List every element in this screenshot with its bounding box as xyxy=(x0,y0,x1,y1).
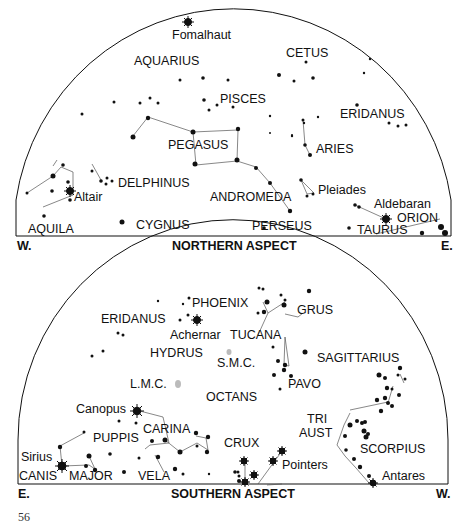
label-andromeda: ANDROMEDA xyxy=(210,191,291,204)
label-aldebaran: Aldebaran xyxy=(374,198,431,211)
label-antares: Antares xyxy=(382,470,425,483)
label-fomalhaut: Fomalhaut xyxy=(172,29,231,42)
south-west-label: W. xyxy=(436,488,451,501)
label-cygnus: CYGNUS xyxy=(136,219,189,232)
pointers-star-icon xyxy=(268,456,278,466)
label-aries: ARIES xyxy=(316,143,354,156)
fomalhaut-star-icon xyxy=(182,16,194,28)
north-east-label: E. xyxy=(441,240,453,253)
label-perseus: PERSEUS xyxy=(252,220,312,233)
southern-aspect-title: SOUTHERN ASPECT xyxy=(171,488,295,501)
smc-cloud xyxy=(227,349,232,355)
label-smc: S.M.C. xyxy=(217,357,255,370)
label-grus: GRUS xyxy=(297,304,333,317)
label-aust: AUST xyxy=(299,427,332,440)
label-puppis: PUPPIS xyxy=(93,432,139,445)
label-hydrus: HYDRUS xyxy=(150,347,203,360)
canopus-star-icon xyxy=(130,404,144,418)
pointers-star-icon-2 xyxy=(277,446,287,456)
label-scorpius: SCORPIUS xyxy=(360,443,425,456)
label-major: MAJOR xyxy=(69,470,113,483)
label-eridanus-north: ERIDANUS xyxy=(340,108,405,121)
crux-star-icon-3 xyxy=(240,477,250,487)
label-vela: VELA xyxy=(138,470,170,483)
label-tri: TRI xyxy=(307,413,327,426)
label-pleiades: Pleiades xyxy=(318,184,366,197)
label-pisces: PISCES xyxy=(220,93,266,106)
achernar-star-icon xyxy=(191,314,203,326)
label-pegasus: PEGASUS xyxy=(168,139,228,152)
label-lmc: L.M.C. xyxy=(130,378,167,391)
label-crux: CRUX xyxy=(224,437,259,450)
label-pointers: Pointers xyxy=(282,459,328,472)
label-phoenix: PHOENIX xyxy=(192,297,248,310)
crux-star-icon xyxy=(239,456,249,466)
label-tucana: TUCANA xyxy=(230,329,281,342)
label-cetus: CETUS xyxy=(286,47,328,60)
label-octans: OCTANS xyxy=(206,391,257,404)
label-canopus: Canopus xyxy=(76,403,126,416)
label-sagittarius: SAGITTARIUS xyxy=(317,352,399,365)
label-taurus: TAURUS xyxy=(357,224,407,237)
label-sirius: Sirius xyxy=(21,451,52,464)
label-altair: Altair xyxy=(74,191,102,204)
northern-aspect-title: NORTHERN ASPECT xyxy=(172,240,297,253)
label-aquila: AQUILA xyxy=(28,223,74,236)
label-eridanus-south: ERIDANUS xyxy=(101,313,166,326)
page-number: 56 xyxy=(18,510,30,525)
south-east-label: E. xyxy=(18,488,30,501)
label-aquarius: AQUARIUS xyxy=(134,55,199,68)
crux-star-icon-2 xyxy=(249,470,259,480)
label-canis: CANIS xyxy=(19,470,57,483)
antares-star-icon xyxy=(368,478,378,488)
label-delphinus: DELPHINUS xyxy=(118,177,190,190)
north-west-label: W. xyxy=(17,240,32,253)
label-achernar: Achernar xyxy=(170,329,221,342)
lmc-cloud xyxy=(175,380,181,388)
label-carina: CARINA xyxy=(143,423,190,436)
label-pavo: PAVO xyxy=(288,378,321,391)
